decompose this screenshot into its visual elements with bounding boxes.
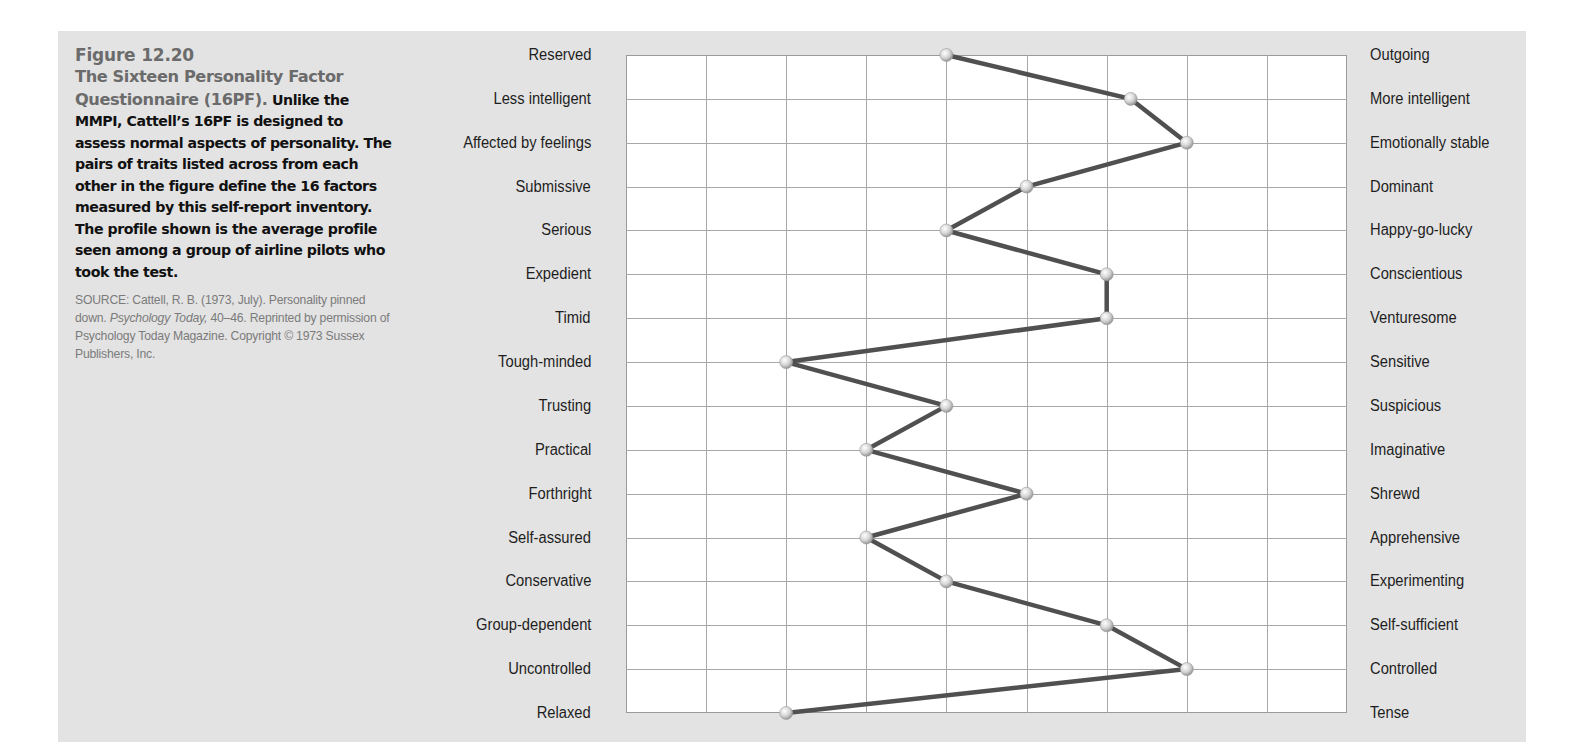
- left-trait-label: Trusting: [538, 396, 591, 416]
- left-trait-label: Less intelligent: [494, 89, 591, 109]
- figure-caption: Figure 12.20 The Sixteen Personality Fac…: [75, 44, 395, 363]
- horizontal-gridline: [626, 669, 1347, 670]
- left-trait-label: Submissive: [516, 177, 591, 197]
- figure-number: Figure 12.20: [75, 44, 395, 66]
- right-trait-label: Suspicious: [1370, 396, 1441, 416]
- horizontal-gridline: [626, 625, 1347, 626]
- vertical-gridline: [1027, 55, 1028, 713]
- right-trait-label: More intelligent: [1370, 89, 1470, 109]
- vertical-gridline: [1107, 55, 1108, 713]
- right-trait-label: Experimenting: [1370, 571, 1464, 591]
- vertical-gridline: [706, 55, 707, 713]
- horizontal-gridline: [626, 362, 1347, 363]
- left-trait-label: Serious: [541, 220, 591, 240]
- right-trait-label: Imaginative: [1370, 440, 1445, 460]
- figure-body-text: Unlike the MMPI, Cattell’s 16PF is desig…: [75, 92, 392, 280]
- left-trait-label: Practical: [535, 440, 591, 460]
- left-trait-label: Affected by feelings: [463, 133, 591, 153]
- right-trait-label: Tense: [1370, 703, 1409, 723]
- left-trait-label: Tough-minded: [498, 352, 591, 372]
- left-trait-label: Timid: [556, 308, 591, 328]
- horizontal-gridline: [626, 538, 1347, 539]
- vertical-gridline: [866, 55, 867, 713]
- horizontal-gridline: [626, 581, 1347, 582]
- horizontal-gridline: [626, 318, 1347, 319]
- left-trait-label: Forthright: [528, 484, 591, 504]
- right-trait-label: Shrewd: [1370, 484, 1420, 504]
- vertical-gridline: [1267, 55, 1268, 713]
- left-trait-label: Group-dependent: [476, 615, 591, 635]
- horizontal-gridline: [626, 450, 1347, 451]
- figure-description: The Sixteen Personality Factor Questionn…: [75, 66, 395, 283]
- right-trait-label: Venturesome: [1370, 308, 1457, 328]
- right-trait-label: Emotionally stable: [1370, 133, 1489, 153]
- right-trait-label: Happy-go-lucky: [1370, 220, 1472, 240]
- right-trait-label: Controlled: [1370, 659, 1437, 679]
- vertical-gridline: [1187, 55, 1188, 713]
- horizontal-gridline: [626, 494, 1347, 495]
- right-trait-label: Dominant: [1370, 177, 1433, 197]
- right-trait-label: Apprehensive: [1370, 528, 1460, 548]
- vertical-gridline: [786, 55, 787, 713]
- source-journal: Psychology Today,: [110, 311, 208, 325]
- horizontal-gridline: [626, 99, 1347, 100]
- vertical-gridline: [946, 55, 947, 713]
- horizontal-gridline: [626, 274, 1347, 275]
- left-trait-label: Self-assured: [508, 528, 591, 548]
- left-trait-label: Expedient: [526, 264, 591, 284]
- left-trait-label: Conservative: [505, 571, 591, 591]
- right-trait-label: Sensitive: [1370, 352, 1430, 372]
- right-trait-label: Self-sufficient: [1370, 615, 1458, 635]
- right-trait-label: Conscientious: [1370, 264, 1462, 284]
- figure-source: SOURCE: Cattell, R. B. (1973, July). Per…: [75, 291, 395, 363]
- horizontal-gridline: [626, 143, 1347, 144]
- right-trait-label: Outgoing: [1370, 45, 1430, 65]
- horizontal-gridline: [626, 230, 1347, 231]
- horizontal-gridline: [626, 406, 1347, 407]
- chart-grid: [626, 55, 1347, 713]
- left-trait-label: Reserved: [528, 45, 591, 65]
- left-trait-label: Relaxed: [537, 703, 591, 723]
- horizontal-gridline: [626, 187, 1347, 188]
- left-trait-label: Uncontrolled: [508, 659, 591, 679]
